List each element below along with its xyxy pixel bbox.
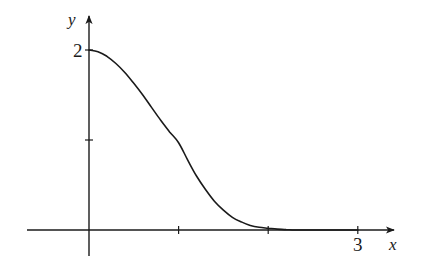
- x-tick-label-3: 3: [353, 234, 363, 255]
- function-plot: y x 2 3: [0, 0, 425, 261]
- y-axis-label: y: [66, 10, 76, 29]
- x-axis-label: x: [388, 235, 397, 254]
- function-curve: [89, 50, 358, 230]
- y-tick-label-2: 2: [73, 40, 83, 61]
